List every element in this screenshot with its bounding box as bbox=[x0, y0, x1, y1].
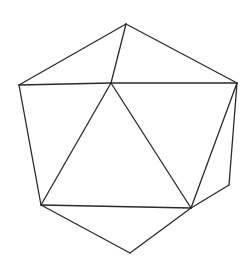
edge-center-bottom_right bbox=[111, 83, 191, 208]
edge-right-bottom_right bbox=[191, 83, 237, 208]
edge-left-top bbox=[19, 24, 126, 85]
edge-center-bottom_left bbox=[41, 83, 111, 205]
edge-left-center bbox=[19, 83, 111, 85]
edge-bottom_left-bottom bbox=[41, 205, 130, 253]
diagram-canvas bbox=[0, 0, 246, 259]
edge-left-bottom_left bbox=[19, 85, 41, 205]
edge-bottom-bottom_right bbox=[130, 208, 191, 253]
edge-right-right_lower bbox=[229, 83, 237, 185]
edge-top-right bbox=[126, 24, 237, 83]
edge-top-center bbox=[111, 24, 126, 83]
edge-right_lower-bottom_right bbox=[191, 185, 229, 208]
polyhedron-wireframe bbox=[0, 0, 246, 259]
edge-bottom_left-bottom_right bbox=[41, 205, 191, 208]
